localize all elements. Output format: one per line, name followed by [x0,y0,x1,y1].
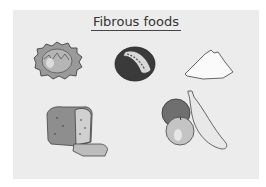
avocado-icon [113,44,159,84]
bread-loaf-icon [45,104,115,160]
flour-pile-icon [183,48,235,82]
illustration-panel: Fibrous foods [13,10,259,179]
fruits-icon [156,89,236,157]
title-text: Fibrous foods [91,14,181,31]
title: Fibrous foods [13,14,259,29]
cabbage-icon [32,41,84,81]
